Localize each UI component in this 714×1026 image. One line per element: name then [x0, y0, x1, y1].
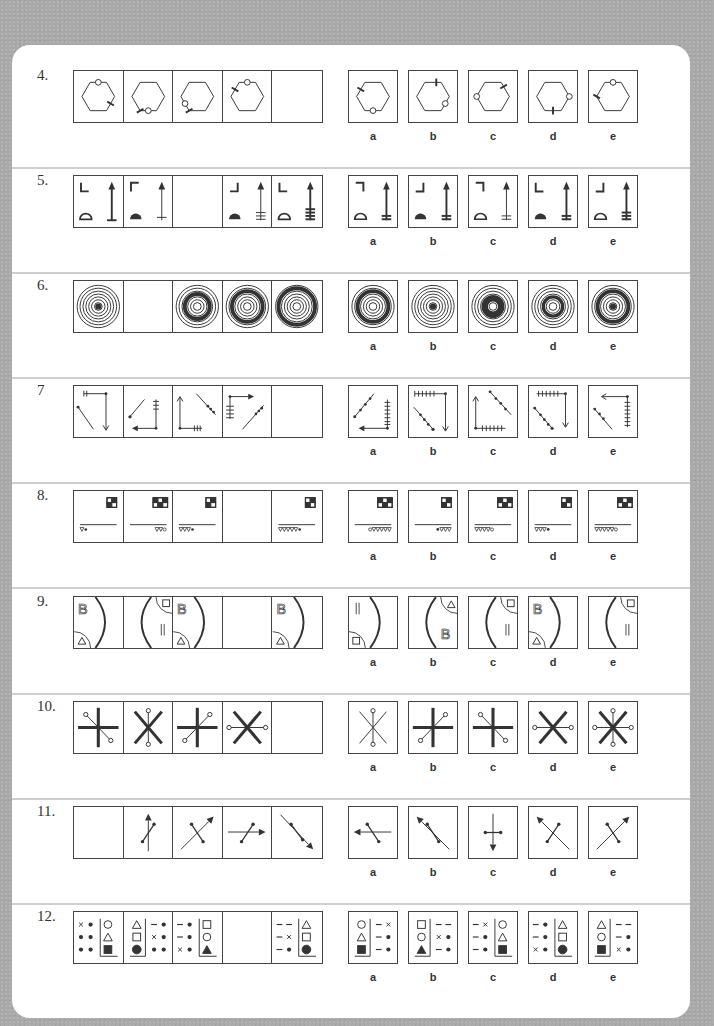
sequence-cell — [223, 386, 273, 437]
option-label: b — [408, 866, 458, 878]
option-label: a — [348, 445, 398, 457]
option-c[interactable] — [468, 280, 518, 333]
missing-cell[interactable] — [74, 807, 124, 858]
missing-cell[interactable] — [124, 281, 174, 332]
sequence-strip — [73, 385, 323, 438]
missing-cell[interactable] — [272, 386, 322, 437]
figure-icon — [223, 386, 272, 437]
option-a[interactable] — [348, 490, 398, 543]
option-c[interactable] — [468, 596, 518, 649]
svg-text:B: B — [78, 601, 88, 617]
option-c[interactable] — [468, 701, 518, 754]
figure-icon — [349, 702, 397, 753]
option-d[interactable] — [528, 175, 578, 228]
sequence-cell — [74, 491, 124, 542]
worksheet-card: 4.abcde5.abcde6.abcde7abcde8.abcde9.BBBa… — [12, 45, 690, 1018]
option-label: b — [408, 656, 458, 668]
option-e[interactable] — [588, 70, 638, 123]
option-d[interactable] — [528, 280, 578, 333]
option-d[interactable] — [528, 385, 578, 438]
option-b[interactable]: B — [408, 596, 458, 649]
figure-icon — [409, 807, 457, 858]
option-e[interactable] — [588, 806, 638, 859]
option-label: a — [348, 340, 398, 352]
missing-cell[interactable] — [272, 71, 322, 122]
option-b[interactable] — [408, 175, 458, 228]
figure-icon — [349, 912, 397, 963]
option-label: c — [468, 761, 518, 773]
missing-cell[interactable] — [223, 597, 273, 648]
option-b[interactable] — [408, 490, 458, 543]
sequence-cell — [173, 281, 223, 332]
figure-icon: B — [74, 597, 123, 648]
option-label: e — [588, 130, 638, 142]
option-a[interactable] — [348, 280, 398, 333]
option-d[interactable] — [528, 701, 578, 754]
option-e[interactable] — [588, 911, 638, 964]
option-label: b — [408, 971, 458, 983]
option-c[interactable] — [468, 490, 518, 543]
option-label: e — [588, 761, 638, 773]
figure-icon — [589, 912, 637, 963]
figure-icon — [589, 281, 637, 332]
missing-cell[interactable] — [173, 176, 223, 227]
option-a[interactable] — [348, 701, 398, 754]
question-number: 5. — [37, 172, 48, 189]
option-a[interactable] — [348, 385, 398, 438]
option-a[interactable] — [348, 911, 398, 964]
figure-icon — [272, 912, 322, 963]
option-b[interactable] — [408, 70, 458, 123]
option-e[interactable] — [588, 701, 638, 754]
row-divider — [12, 693, 690, 695]
missing-cell[interactable] — [272, 702, 322, 753]
figure-icon — [529, 807, 577, 858]
option-d[interactable] — [528, 70, 578, 123]
figure-icon — [409, 912, 457, 963]
sequence-cell — [124, 71, 174, 122]
option-label: b — [408, 550, 458, 562]
figure-icon — [272, 807, 322, 858]
figure-icon — [589, 176, 637, 227]
option-e[interactable] — [588, 385, 638, 438]
option-a[interactable] — [348, 806, 398, 859]
option-d[interactable] — [528, 806, 578, 859]
option-e[interactable] — [588, 175, 638, 228]
option-c[interactable] — [468, 911, 518, 964]
missing-cell[interactable] — [223, 491, 273, 542]
option-b[interactable] — [408, 385, 458, 438]
figure-icon — [529, 386, 577, 437]
option-b[interactable] — [408, 806, 458, 859]
row-divider — [12, 272, 690, 274]
figure-icon — [124, 597, 173, 648]
option-d[interactable] — [528, 490, 578, 543]
missing-cell[interactable] — [223, 912, 273, 963]
option-e[interactable] — [588, 596, 638, 649]
sequence-cell: B — [74, 597, 124, 648]
option-label: a — [348, 971, 398, 983]
option-c[interactable] — [468, 70, 518, 123]
sequence-strip — [73, 911, 323, 964]
sequence-cell — [223, 176, 273, 227]
option-b[interactable] — [408, 701, 458, 754]
question-number: 9. — [37, 593, 48, 610]
option-a[interactable] — [348, 596, 398, 649]
option-c[interactable] — [468, 806, 518, 859]
figure-icon — [223, 702, 272, 753]
option-b[interactable] — [408, 280, 458, 333]
option-c[interactable] — [468, 175, 518, 228]
option-c[interactable] — [468, 385, 518, 438]
option-e[interactable] — [588, 490, 638, 543]
option-d[interactable]: B — [528, 596, 578, 649]
option-a[interactable] — [348, 70, 398, 123]
figure-icon — [529, 912, 577, 963]
figure-icon — [124, 386, 173, 437]
option-e[interactable] — [588, 280, 638, 333]
figure-icon — [173, 702, 222, 753]
figure-icon — [349, 807, 397, 858]
option-label: e — [588, 656, 638, 668]
option-a[interactable] — [348, 175, 398, 228]
option-d[interactable] — [528, 911, 578, 964]
option-label: d — [528, 130, 578, 142]
row-divider — [12, 903, 690, 905]
option-b[interactable] — [408, 911, 458, 964]
